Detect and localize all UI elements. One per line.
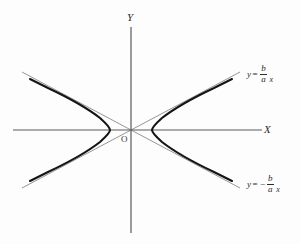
asymptote-negative-equals: =	[253, 179, 258, 189]
asymptote-label-negative: y = − b a x	[247, 174, 280, 195]
x-axis-label: X	[264, 123, 271, 135]
asymptote-negative-numerator: b	[267, 174, 274, 183]
asymptote-positive-fraction: b a	[260, 64, 267, 85]
asymptote-label-positive: y = b a x	[247, 64, 273, 85]
asymptote-negative-fraction: b a	[267, 174, 274, 195]
asymptote-positive-x-var: x	[270, 75, 274, 85]
asymptote-positive-numerator: b	[260, 64, 267, 73]
hyperbola-plot-svg	[0, 0, 301, 244]
asymptote-negative-denominator: a	[267, 185, 274, 194]
asymptote-positive-equals: =	[253, 69, 258, 79]
hyperbola-figure: Y X O y = b a x y = − b a x	[0, 0, 301, 244]
origin-label: O	[121, 134, 128, 144]
asymptote-positive-denominator: a	[260, 75, 267, 84]
asymptote-negative-sign: −	[260, 179, 265, 189]
asymptote-negative-y-var: y	[247, 179, 251, 189]
asymptote-negative-x-var: x	[276, 185, 280, 195]
asymptote-positive-y-var: y	[247, 69, 251, 79]
y-axis-label: Y	[127, 11, 133, 23]
